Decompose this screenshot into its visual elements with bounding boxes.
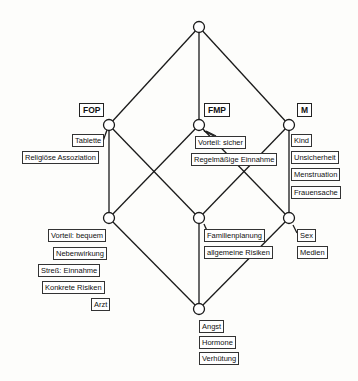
label-medien: Medien <box>297 246 328 259</box>
label-konkrete-risiken: Konkrete Risiken <box>42 281 105 294</box>
label-arzt: Arzt <box>91 298 110 311</box>
attribute-m: M <box>297 103 312 117</box>
attribute-fmp: FMP <box>204 103 230 117</box>
label-frauensache: Frauensache <box>291 186 341 199</box>
label-hormone: Hormone <box>199 336 236 349</box>
label-angst: Angst <box>199 320 224 333</box>
attribute-fop: FOP <box>79 103 104 117</box>
label-vorteil-sicher: Vorteil: sicher <box>195 136 246 149</box>
label-religioese-assoziation: Religiöse Assoziation <box>22 151 99 164</box>
label-vorteil-bequem: Vorteil: bequem <box>48 229 106 242</box>
label-tablette: Tablette <box>72 134 104 147</box>
label-unsicherheit: Unsicherheit <box>291 151 339 164</box>
label-kind: Kind <box>291 134 312 147</box>
label-menstruation: Menstruation <box>291 168 340 181</box>
label-sex: Sex <box>297 229 316 242</box>
label-allgemeine-risiken: allgemeine Risiken <box>204 246 273 259</box>
label-nebenwirkung: Nebenwirkung <box>53 247 107 260</box>
label-regelmaessige-einnahme: Regelmäßige Einnahme <box>191 153 277 166</box>
label-stress-einnahme: Streß: Einnahme <box>38 264 100 277</box>
label-verhuetung: Verhütung <box>199 352 239 365</box>
label-familienplanung: Familienplanung <box>204 229 265 242</box>
